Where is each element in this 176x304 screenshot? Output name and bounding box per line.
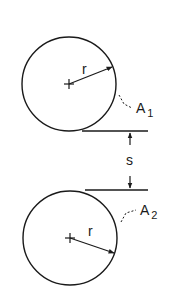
bottom-circle-group: r A2 (23, 191, 157, 285)
gap-dimension: s (126, 133, 133, 188)
bottom-radius-arrow (70, 238, 114, 253)
top-radius-arrow (69, 67, 112, 84)
top-circle-group: r A1 (22, 37, 153, 131)
diagram-canvas: r A1 s r A2 (0, 0, 176, 304)
gap-label: s (126, 152, 133, 168)
top-area-label: A1 (136, 100, 153, 119)
bottom-radius-label: r (88, 223, 93, 239)
top-radius-label: r (82, 61, 87, 77)
bottom-area-leader (121, 210, 136, 222)
bottom-area-label: A2 (140, 202, 157, 221)
top-area-leader (119, 95, 132, 108)
